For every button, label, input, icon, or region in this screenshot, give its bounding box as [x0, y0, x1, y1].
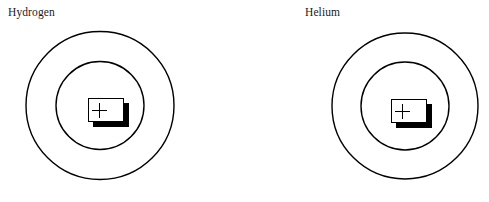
nucleus-charge-plus-helium: [395, 104, 410, 119]
atomic-diagram-canvas: Hydrogen Helium: [0, 0, 489, 202]
atom-label-helium: Helium: [305, 6, 340, 19]
nucleus-helium: [391, 99, 432, 128]
nucleus-body-helium: [391, 99, 427, 123]
atom-diagram-helium: Helium: [0, 0, 489, 202]
